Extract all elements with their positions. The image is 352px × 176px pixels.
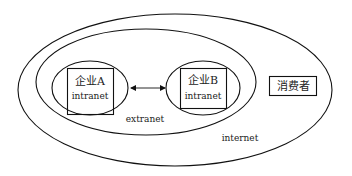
internet-label: internet: [222, 133, 259, 143]
enterprise-b-intranet-label: intranet: [185, 91, 222, 101]
enterprise-b-intranet-ellipse: [166, 61, 240, 115]
enterprise-a-intranet-ellipse: [52, 61, 128, 115]
enterprise-a-title: 企业A: [75, 74, 106, 88]
enterprise-b-title: 企业B: [188, 73, 218, 87]
consumer-label: 消费者: [277, 79, 310, 93]
network-diagram: 企业A intranet 企业B intranet 消费者 extranet i…: [0, 0, 352, 176]
enterprise-a-intranet-label: intranet: [72, 91, 109, 101]
extranet-label: extranet: [126, 114, 165, 124]
